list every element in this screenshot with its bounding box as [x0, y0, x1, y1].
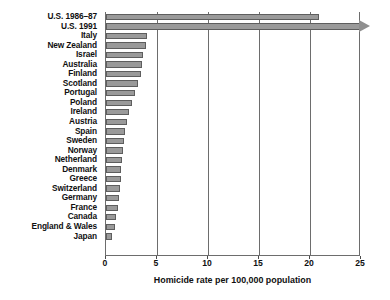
bar: [106, 14, 319, 20]
bar-row: [106, 41, 359, 51]
bar: [106, 224, 115, 230]
bar: [106, 119, 127, 125]
bar-row: [106, 117, 359, 127]
bar: [106, 147, 123, 153]
bar-row: [106, 165, 359, 175]
bar: [106, 71, 141, 77]
bar: [106, 52, 143, 58]
bar: [106, 100, 132, 106]
bar-series: [106, 12, 359, 241]
bar: [106, 195, 119, 201]
bar-row: [106, 127, 359, 137]
bar-row: [106, 107, 359, 117]
x-tick-label: 10: [202, 258, 212, 268]
bar-row: [106, 193, 359, 203]
bar-row: [106, 31, 359, 41]
bar-overflow-arrow-icon: [359, 20, 370, 32]
x-axis: 0510152025: [105, 256, 360, 266]
bar: [106, 214, 116, 220]
bar-row: [106, 12, 359, 22]
bar: [106, 90, 135, 96]
x-tick-label: 20: [304, 258, 314, 268]
bar-row: [106, 98, 359, 108]
bar-row: [106, 212, 359, 222]
plot-area: [105, 12, 360, 256]
bar-row: [106, 203, 359, 213]
bar-row: [106, 69, 359, 79]
bar-row: [106, 136, 359, 146]
bar: [106, 205, 118, 211]
x-tick-label: 25: [355, 258, 365, 268]
bar-row: [106, 155, 359, 165]
homicide-rate-bar-chart: U.S. 1986–87 U.S. 1991 Italy New Zealand…: [0, 0, 390, 300]
bar: [106, 128, 125, 134]
bar-row: [106, 232, 359, 242]
x-tick-label: 0: [103, 258, 108, 268]
bar: [106, 185, 120, 191]
bar-row: [106, 146, 359, 156]
bar: [106, 80, 138, 86]
bar-row: [106, 50, 359, 60]
bar-row: [106, 22, 359, 32]
bar-row: [106, 222, 359, 232]
category-axis-labels: U.S. 1986–87 U.S. 1991 Italy New Zealand…: [0, 12, 101, 241]
bar-row: [106, 79, 359, 89]
bar-row: [106, 184, 359, 194]
bar: [106, 233, 112, 239]
bar-row: [106, 60, 359, 70]
bar-row: [106, 174, 359, 184]
x-axis-title: Homicide rate per 100,000 population: [105, 275, 360, 285]
bar: [106, 166, 121, 172]
bar: [106, 42, 146, 48]
category-label: Japan: [0, 232, 101, 242]
bar: [106, 33, 147, 39]
bar: [106, 138, 124, 144]
bar: [106, 176, 121, 182]
bar: [106, 157, 122, 163]
bar: [106, 23, 359, 29]
bar-row: [106, 88, 359, 98]
x-tick-label: 5: [154, 258, 159, 268]
x-tick-label: 15: [253, 258, 263, 268]
bar: [106, 61, 142, 67]
bar: [106, 109, 129, 115]
